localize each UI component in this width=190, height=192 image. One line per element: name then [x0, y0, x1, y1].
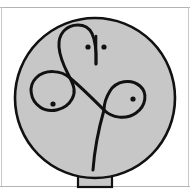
left-eye-dot — [85, 44, 90, 49]
left-loop-center-dot — [50, 101, 55, 106]
figure-illustration — [0, 0, 190, 192]
figure-page — [0, 0, 190, 192]
right-loop-center-dot — [130, 96, 135, 101]
right-eye-dot — [101, 44, 106, 49]
